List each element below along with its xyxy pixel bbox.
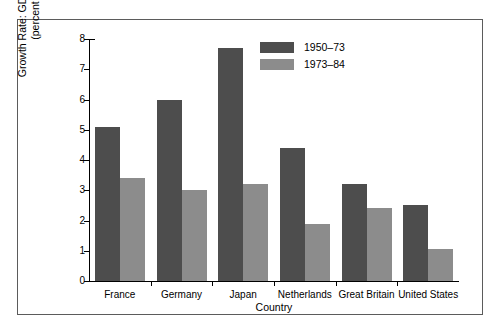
y-axis-tick-label: 8 <box>79 32 85 45</box>
bar <box>95 127 120 281</box>
bar <box>367 208 392 281</box>
y-axis-tick-label: 7 <box>79 62 85 75</box>
y-axis-tick-label: 1 <box>79 244 85 257</box>
bar <box>218 48 243 281</box>
x-axis-tick-label: United States <box>398 288 458 301</box>
x-axis-tick-mark <box>212 282 213 286</box>
y-axis-tick-label: 2 <box>79 214 85 227</box>
y-axis-title: Growth Rate: GDP per Work Hour (percent … <box>16 0 42 114</box>
bar <box>280 148 305 281</box>
y-axis-tick-label: 3 <box>79 183 85 196</box>
y-axis-tick-label: 0 <box>79 274 85 287</box>
y-axis-tick-label: 5 <box>79 123 85 136</box>
y-axis-title-line-1: Growth Rate: GDP per Work Hour <box>16 0 29 114</box>
bar <box>182 190 207 281</box>
bar <box>157 100 182 282</box>
x-axis-tick-mark <box>151 282 152 286</box>
x-axis-tick-mark <box>336 282 337 286</box>
bar <box>342 184 367 281</box>
y-axis-title-line-2: (percent per year) <box>29 0 42 114</box>
x-axis-tick-label: Netherlands <box>278 288 332 301</box>
bar <box>403 205 428 281</box>
x-axis-tick-label: Germany <box>161 288 202 301</box>
bar <box>305 224 330 281</box>
x-axis-tick-label: France <box>104 288 135 301</box>
figure-frame: Growth Rate: GDP per Work Hour (percent … <box>17 19 483 315</box>
bar <box>120 178 145 281</box>
plot-area: 012345678 FranceGermanyJapanNetherlandsG… <box>89 39 459 281</box>
y-axis-tick-label: 4 <box>79 153 85 166</box>
x-axis-tick-mark <box>397 282 398 286</box>
bar <box>428 249 453 281</box>
y-axis-tick-label: 6 <box>79 93 85 106</box>
x-axis-tick-label: Japan <box>230 288 257 301</box>
bar <box>243 184 268 281</box>
x-axis-tick-label: Great Britain <box>338 288 394 301</box>
x-axis-title: Country <box>89 301 459 314</box>
x-axis-tick-mark <box>274 282 275 286</box>
